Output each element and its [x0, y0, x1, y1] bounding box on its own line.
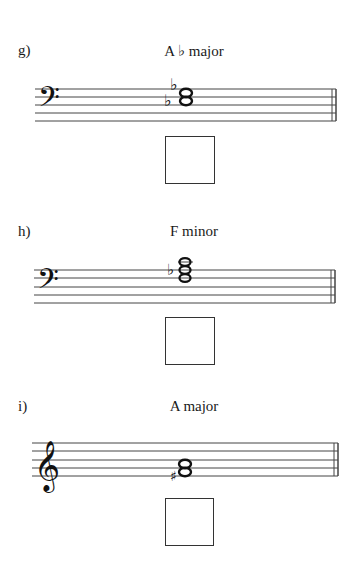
svg-text:𝄞: 𝄞: [34, 439, 60, 493]
exercise-i-staff: 𝄞 ♯: [0, 0, 353, 561]
exercise-i-answer-box[interactable]: [165, 498, 214, 546]
chord-a-major: ♯: [170, 460, 191, 484]
svg-text:♯: ♯: [170, 468, 177, 484]
treble-clef-icon: 𝄞: [34, 439, 60, 493]
